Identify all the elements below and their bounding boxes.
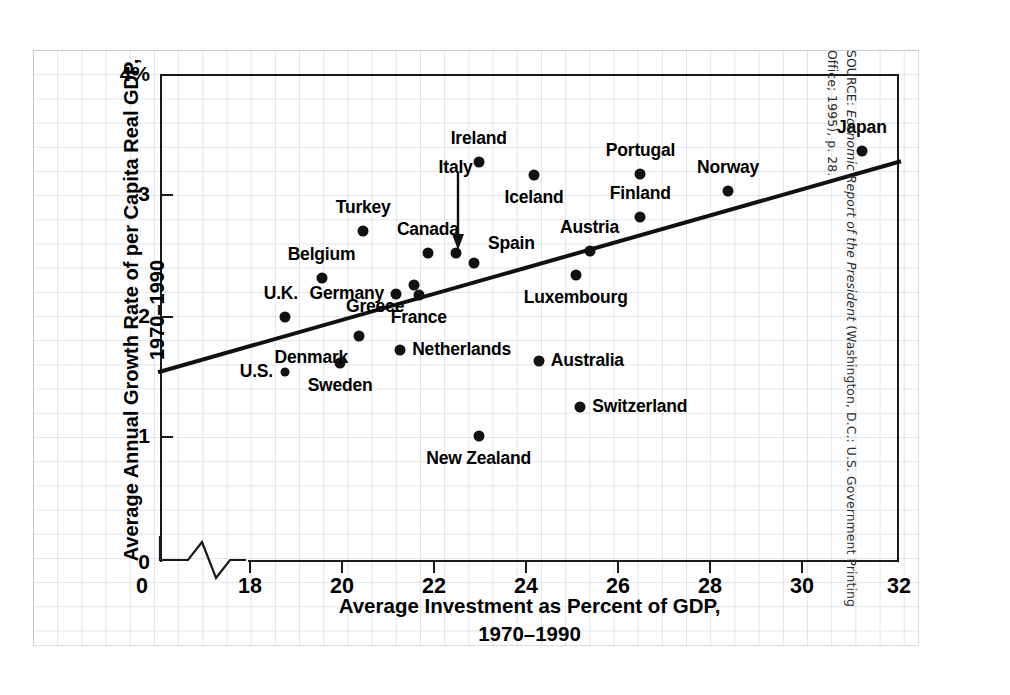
source-title: Economic Report of the President [844,110,859,321]
figure-page: Average Annual Growth Rate of per Capita… [0,0,1010,695]
x-tick-30 [801,560,803,573]
italy-callout-arrow [160,74,899,562]
source-note: SOURCE: Economic Report of the President… [830,50,860,650]
plot-area: Average Annual Growth Rate of per Capita… [160,74,899,562]
source-prefix: SOURCE: [844,50,859,110]
y-tick-label-1: 1 [102,424,150,448]
y-tick-label-2: 2 [102,304,150,328]
x-axis-title-line1: Average Investment as Percent of GDP, [160,592,899,620]
x-tick-20 [341,560,343,573]
y-tick-label-3: 3 [102,182,150,206]
x-axis-title-line2: 1970–1990 [160,620,899,648]
x-tick-label-0: 0 [136,574,148,599]
x-tick-22 [433,560,435,573]
x-axis-title: Average Investment as Percent of GDP, 19… [160,592,899,647]
x-tick-18 [249,560,251,573]
x-tick-26 [617,560,619,573]
y-tick-label-0: 0 [102,550,150,574]
x-tick-24 [525,560,527,573]
y-tick-label-4: 4% [102,62,150,86]
x-tick-28 [709,560,711,573]
